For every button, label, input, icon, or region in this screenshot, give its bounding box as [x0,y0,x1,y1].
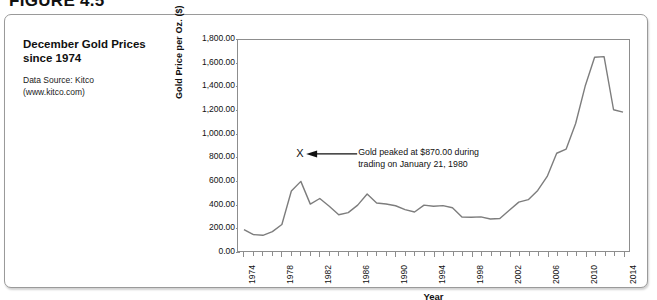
x-tick-mark [605,252,606,256]
peak-annotation-text: Gold peaked at $870.00 during trading on… [358,146,479,170]
x-tick-mark [453,252,454,256]
x-tick-label: 1986 [361,265,371,284]
peak-marker-x: X [296,147,303,159]
x-tick-mark [300,252,301,256]
x-tick-mark [576,252,577,256]
x-tick-label: 1978 [285,265,295,284]
y-tick-label: 1,800.00 [173,33,235,43]
x-tick-mark [367,252,368,256]
x-tick-mark [434,252,435,257]
x-tick-label: 1982 [323,265,333,284]
x-tick-mark [567,252,568,256]
caption-title-line2: since 1974 [23,52,81,64]
x-tick-label: 1998 [475,265,485,284]
x-tick-mark [624,252,625,257]
x-tick-mark [548,252,549,257]
y-tick-label: 400.00 [173,199,235,209]
x-tick-mark [481,252,482,256]
y-tick-label: 0.00 [173,246,235,256]
y-tick-label: 1,200.00 [173,104,235,114]
x-tick-mark [424,252,425,256]
x-axis-title: Year [237,291,630,300]
x-tick-mark [414,252,415,256]
x-tick-mark [253,252,254,256]
x-tick-mark [243,252,244,257]
caption-block: December Gold Prices since 1974 Data Sou… [23,37,173,98]
x-tick-label: 2002 [513,265,523,284]
y-tick-label: 1,000.00 [173,128,235,138]
x-tick-mark [510,252,511,257]
x-tick-mark [405,252,406,256]
x-tick-mark [462,252,463,256]
x-tick-mark [338,252,339,256]
x-tick-mark [519,252,520,256]
figure-label: FIGURE 4.5 [9,0,105,11]
x-tick-mark [319,252,320,257]
x-tick-mark [538,252,539,256]
figure-frame: December Gold Prices since 1974 Data Sou… [4,14,648,288]
x-tick-mark [595,252,596,256]
x-tick-mark [500,252,501,256]
y-axis-ticks: 1,800.001,600.001,400.001,200.001,000.00… [173,33,235,253]
figure-root: FIGURE 4.5 December Gold Prices since 19… [0,0,657,300]
caption-title-line1: December Gold Prices [23,38,146,50]
x-tick-label: 2014 [628,265,638,284]
x-tick-mark [329,252,330,256]
x-tick-label: 2010 [589,265,599,284]
caption-title: December Gold Prices since 1974 [23,37,173,65]
x-tick-mark [357,252,358,257]
y-tick-label: 200.00 [173,222,235,232]
caption-source-line1: Data Source: Kitco [23,75,94,85]
x-tick-mark [376,252,377,256]
chart: Gold Price per Oz. ($) 1,800.001,600.001… [181,33,641,295]
x-tick-mark [310,252,311,256]
x-tick-mark [395,252,396,257]
x-tick-label: 1990 [399,265,409,284]
x-tick-label: 1974 [247,265,257,284]
x-tick-mark [386,252,387,256]
x-tick-mark [443,252,444,256]
y-tick-label: 800.00 [173,151,235,161]
caption-source: Data Source: Kitco (www.kitco.com) [23,75,173,98]
x-tick-mark [557,252,558,256]
x-tick-mark [348,252,349,256]
y-tick-label: 600.00 [173,175,235,185]
x-tick-mark [491,252,492,256]
x-tick-label: 2006 [551,265,561,284]
x-tick-mark [262,252,263,256]
x-tick-label: 1994 [437,265,447,284]
x-tick-mark [529,252,530,256]
caption-source-line2: (www.kitco.com) [23,87,85,97]
x-tick-mark [614,252,615,256]
x-tick-mark [272,252,273,256]
y-tick-label: 1,400.00 [173,80,235,90]
x-tick-mark [281,252,282,257]
x-tick-mark [472,252,473,257]
x-tick-mark [291,252,292,256]
y-tick-label: 1,600.00 [173,57,235,67]
x-tick-mark [586,252,587,257]
